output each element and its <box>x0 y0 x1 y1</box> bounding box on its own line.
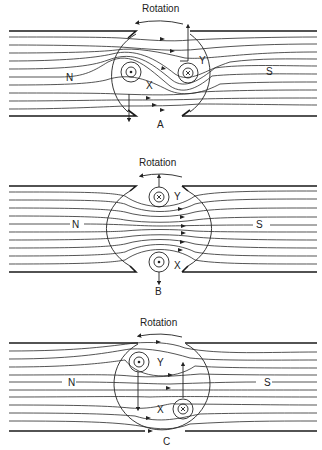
conductor-y-b <box>149 187 169 207</box>
panel-label: A <box>157 119 164 130</box>
rotation-label: Rotation <box>142 3 179 14</box>
rotation-arrow <box>139 334 182 337</box>
conductor-x-a <box>121 62 141 82</box>
flow-arrows-a <box>146 37 175 112</box>
rotation-arrow <box>141 174 182 177</box>
panel-label: B <box>155 286 162 297</box>
conductor-x-label: X <box>157 404 164 415</box>
rotation-arrow <box>137 21 183 24</box>
conductor-x-c <box>173 399 193 419</box>
rotation-label: Rotation <box>140 317 177 328</box>
conductor-x-label: X <box>146 80 153 91</box>
rotation-label: Rotation <box>139 157 176 168</box>
pole-label-n: N <box>66 72 73 83</box>
pole-label-n: N <box>72 219 79 230</box>
panel-b: Rotation <box>9 157 317 297</box>
motor-rotation-diagram: Rotation <box>0 0 322 450</box>
panel-label: C <box>163 436 170 447</box>
field-lines-c <box>9 343 317 429</box>
pole-wall-bottom-left <box>9 110 136 116</box>
conductor-y-label: Y <box>174 191 181 202</box>
pole-wall-bottom-right-lip <box>182 110 190 116</box>
conductor-y-a <box>178 63 198 83</box>
conductor-x-b <box>149 252 169 272</box>
pole-label-s: S <box>264 377 271 388</box>
pole-label-s: S <box>266 66 273 77</box>
panel-c: Rotation <box>9 317 317 447</box>
panel-a: Rotation <box>9 3 317 130</box>
conductor-x-label: X <box>174 260 181 271</box>
conductor-y-label: Y <box>199 55 206 66</box>
pole-label-s: S <box>256 219 263 230</box>
pole-label-n: N <box>68 377 75 388</box>
conductor-y-c <box>129 352 149 372</box>
conductor-y-label: Y <box>157 357 164 368</box>
